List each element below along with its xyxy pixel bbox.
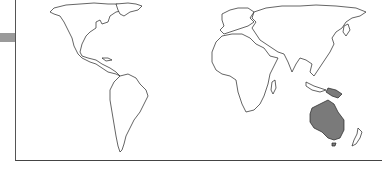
new-zealand <box>352 128 362 146</box>
tasmania <box>332 143 336 146</box>
south-america <box>110 74 148 152</box>
europe <box>220 8 254 34</box>
australia <box>310 100 344 140</box>
north-america <box>50 3 128 76</box>
indonesia <box>306 82 326 92</box>
caribbean <box>102 58 112 61</box>
madagascar <box>271 80 276 94</box>
japan <box>343 24 350 36</box>
side-tab <box>0 33 15 42</box>
greenland <box>116 3 142 16</box>
papua-new-guinea <box>326 88 342 98</box>
world-map <box>16 0 382 160</box>
